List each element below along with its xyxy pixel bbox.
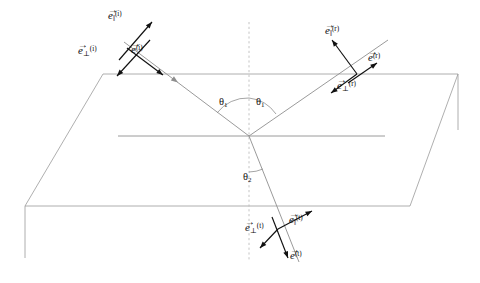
label-transmitted-perpendicular: →e⊥(t) (245, 222, 264, 235)
vector-arrow-incident-perpendicular: → (78, 40, 83, 50)
transmitted-ray (249, 136, 299, 262)
interface-plane (25, 74, 458, 206)
label-incident-perpendicular: →e⊥(i) (78, 45, 97, 58)
incident-ray (124, 42, 249, 136)
transmitted-propagation-vector (272, 217, 288, 258)
vector-arrow-reflected-propagation: → (368, 47, 373, 57)
incident-ray-arrowhead (171, 76, 180, 84)
label-reflected-perpendicular: →e⊥(r) (337, 80, 356, 93)
vector-arrow-transmitted-parallel: → (289, 209, 294, 219)
optics-diagram: →e‖(i) →e⊥(i) →e(i) →e‖(r) →e⊥(r) →e(r) … (0, 0, 480, 283)
label-transmitted-parallel: →e‖(t) (289, 214, 303, 227)
label-transmitted-propagation: →e(t) (290, 250, 302, 261)
diagram-canvas (0, 0, 480, 283)
label-reflected-propagation: →e(r) (368, 52, 380, 63)
label-angle-reflection: θ1 (256, 97, 265, 109)
label-angle-incidence: θ1 (219, 97, 228, 109)
vector-arrow-reflected-perpendicular: → (337, 75, 342, 85)
label-incident-propagation: →e(i) (131, 44, 143, 55)
vector-arrow-reflected-parallel: → (325, 20, 330, 30)
vector-arrow-incident-propagation: → (131, 39, 136, 49)
vector-arrow-transmitted-perpendicular: → (245, 217, 250, 227)
transmitted-parallel-arrowhead (305, 209, 313, 216)
label-reflected-parallel: →e‖(r) (325, 25, 339, 38)
vector-arrow-transmitted-propagation: → (290, 245, 295, 255)
vector-arrow-incident-parallel: → (108, 5, 113, 15)
label-angle-refraction: θ2 (243, 172, 252, 184)
label-incident-parallel: →e‖(i) (108, 10, 122, 23)
